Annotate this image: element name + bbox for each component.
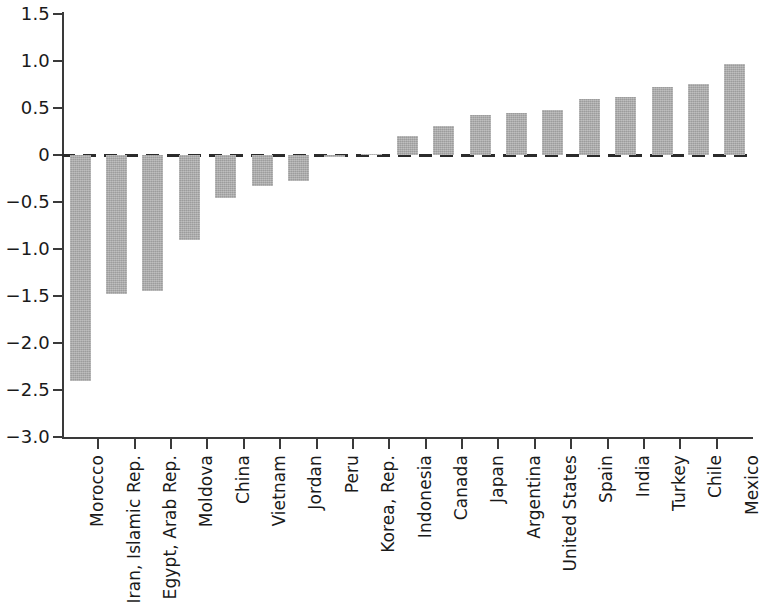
x-axis-label: Argentina (524, 455, 544, 539)
x-axis-label: United States (560, 455, 580, 571)
x-axis-label: Korea, Rep. (378, 455, 398, 553)
x-axis-label: Morocco (87, 455, 107, 527)
x-axis-label: Mexico (742, 455, 762, 515)
x-axis-label: Peru (342, 455, 362, 493)
x-axis-label: Japan (487, 455, 507, 503)
x-axis-label: Iran, Islamic Rep. (124, 455, 144, 604)
x-axis-label: Spain (596, 455, 616, 503)
x-axis-label: Vietnam (269, 455, 289, 527)
x-axis-label: Egypt, Arab Rep. (160, 455, 180, 599)
x-axis-label: Canada (451, 455, 471, 520)
x-axis-label: Turkey (669, 455, 689, 511)
x-axis-label: Moldova (196, 455, 216, 527)
x-axis-label: India (633, 455, 653, 497)
x-axis-label: Chile (705, 455, 725, 498)
x-axis-label: Jordan (305, 455, 325, 510)
x-axis-label: Indonesia (415, 455, 435, 538)
x-axis-label: China (233, 455, 253, 504)
